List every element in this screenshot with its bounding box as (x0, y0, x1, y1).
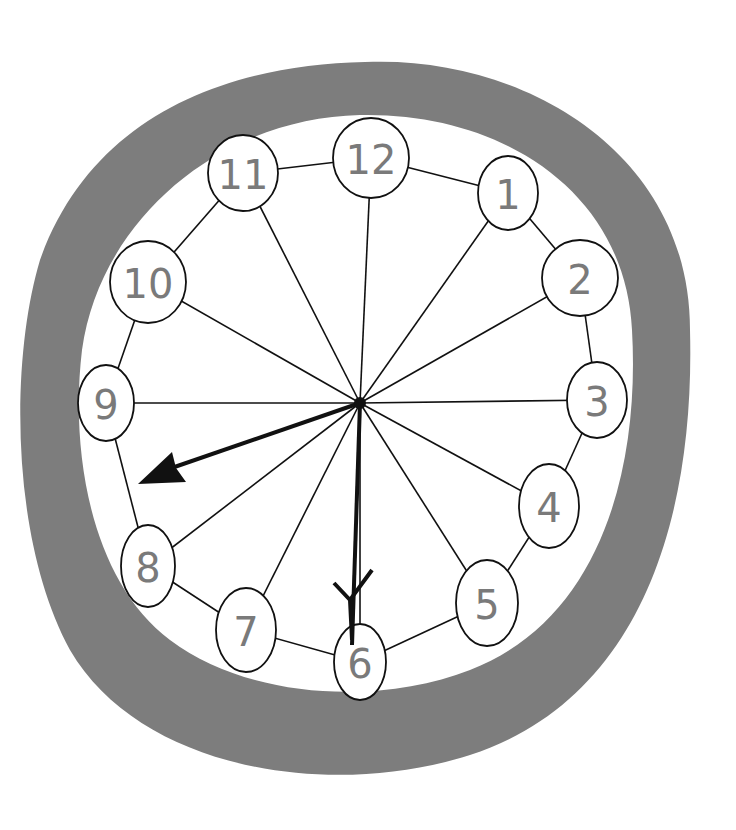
numeral-label: 3 (584, 379, 609, 425)
numeral-label: 8 (135, 545, 160, 591)
numeral-11: 11 (208, 135, 278, 211)
numeral-7: 7 (216, 588, 276, 672)
numeral-label: 9 (93, 382, 118, 428)
numeral-label: 7 (233, 609, 258, 655)
clock-drawing: 121234567891011 (0, 0, 736, 830)
numeral-label: 2 (567, 257, 592, 303)
numeral-4: 4 (519, 464, 579, 548)
numeral-10: 10 (110, 241, 186, 323)
numeral-label: 12 (346, 137, 397, 183)
numeral-3: 3 (567, 362, 627, 438)
numeral-label: 10 (123, 261, 174, 307)
numeral-12: 12 (333, 118, 409, 198)
numeral-label: 4 (536, 485, 561, 531)
numeral-label: 6 (347, 641, 372, 687)
numeral-label: 11 (218, 152, 269, 198)
numeral-8: 8 (121, 525, 175, 607)
numeral-5: 5 (456, 560, 518, 646)
numeral-6: 6 (334, 624, 386, 700)
numeral-1: 1 (478, 156, 538, 230)
numeral-label: 5 (474, 582, 499, 628)
clock-center (354, 397, 366, 409)
numeral-9: 9 (78, 365, 134, 441)
numeral-label: 1 (495, 172, 520, 218)
numeral-2: 2 (542, 240, 618, 316)
